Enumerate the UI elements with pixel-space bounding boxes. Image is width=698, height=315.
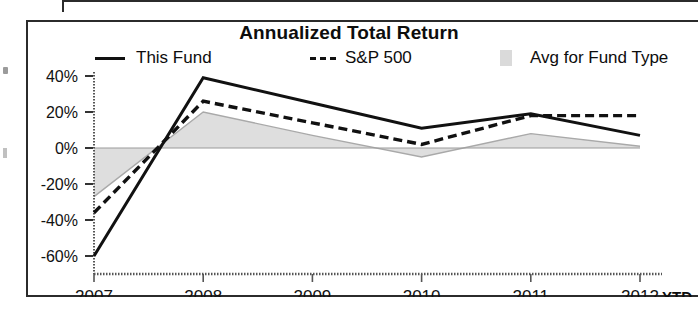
x-tick-label: 2011 — [513, 287, 550, 297]
chart-plot-svg: 40%20%0%-20%-40%-60%20072008200920102011… — [26, 20, 698, 297]
x-tick-label: 2012 — [621, 287, 659, 297]
series-line-this-fund — [94, 78, 640, 256]
x-tick-label: 2010 — [403, 287, 441, 297]
y-tick-label: 0% — [55, 140, 78, 157]
x-tick-label: 2007 — [75, 287, 113, 297]
page-top-rule — [62, 0, 698, 2]
scan-artifact-left-lower — [3, 148, 7, 158]
x-tick-label: 2008 — [184, 287, 222, 297]
x-tick-label: 2009 — [293, 287, 331, 297]
page-top-rule-corner — [62, 0, 64, 12]
y-tick-label: -40% — [41, 212, 78, 229]
y-tick-label: 40% — [46, 68, 78, 85]
scan-artifact-left-upper — [3, 67, 8, 74]
y-tick-label: 20% — [46, 104, 78, 121]
chart-screenshot: Annualized Total Return This Fund S&P 50… — [0, 0, 698, 315]
y-tick-label: -20% — [41, 176, 78, 193]
plot-area: 40%20%0%-20%-40%-60%20072008200920102011… — [26, 20, 698, 297]
x-axis-ytd-label: YTD — [662, 288, 692, 297]
y-tick-label: -60% — [41, 248, 78, 265]
